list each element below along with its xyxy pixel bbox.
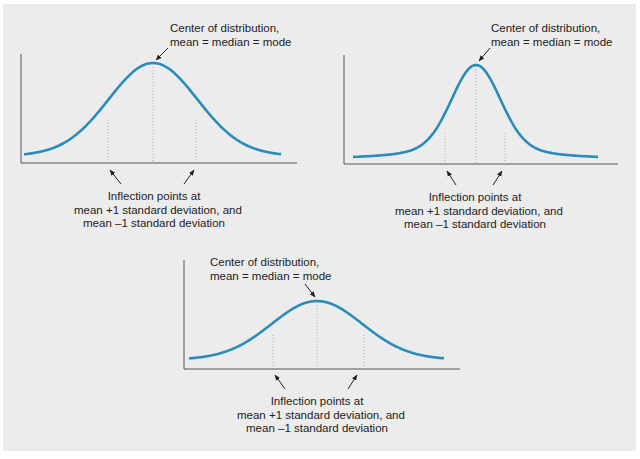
- center-arrow-icon: [305, 284, 315, 297]
- center-arrow-icon: [479, 48, 490, 61]
- inflection-label-line3: mean –1 standard deviation: [237, 422, 397, 436]
- inflection-label-line1: Inflection points at: [74, 190, 234, 204]
- inflection-label-line1: Inflection points at: [237, 395, 397, 409]
- center-label-line1: Center of distribution,: [491, 22, 612, 36]
- center-label: Center of distribution, mean = median = …: [491, 22, 612, 49]
- inflection-arrow-right-icon: [184, 170, 194, 184]
- inflection-arrow-left-icon: [275, 375, 285, 389]
- center-arrow-icon: [156, 48, 168, 60]
- inflection-label-line2: mean +1 standard deviation, and: [74, 204, 234, 218]
- center-label-line2: mean = median = mode: [210, 270, 331, 284]
- chart-standard: [21, 48, 297, 184]
- distribution-curve: [24, 63, 281, 154]
- center-label-line1: Center of distribution,: [210, 256, 331, 270]
- inflection-label-line3: mean –1 standard deviation: [395, 218, 555, 232]
- center-label: Center of distribution, mean = median = …: [170, 22, 291, 49]
- distribution-curve: [353, 65, 598, 157]
- chart-narrow: [344, 48, 618, 185]
- inflection-arrow-left-icon: [110, 170, 121, 184]
- center-label-line1: Center of distribution,: [170, 22, 291, 36]
- inflection-label-line2: mean +1 standard deviation, and: [395, 205, 555, 219]
- center-label-line2: mean = median = mode: [491, 36, 612, 50]
- inflection-label: Inflection points at mean +1 standard de…: [237, 395, 397, 436]
- inflection-arrow-right-icon: [348, 375, 357, 389]
- inflection-label: Inflection points at mean +1 standard de…: [395, 191, 555, 232]
- inflection-arrow-right-icon: [493, 171, 502, 185]
- inflection-label-line2: mean +1 standard deviation, and: [237, 409, 397, 423]
- inflection-label-line1: Inflection points at: [395, 191, 555, 205]
- inflection-label-line3: mean –1 standard deviation: [74, 217, 234, 231]
- distribution-curve: [189, 301, 444, 358]
- center-label: Center of distribution, mean = median = …: [210, 256, 331, 283]
- inflection-label: Inflection points at mean +1 standard de…: [74, 190, 234, 231]
- inflection-arrow-left-icon: [447, 171, 456, 185]
- center-label-line2: mean = median = mode: [170, 36, 291, 50]
